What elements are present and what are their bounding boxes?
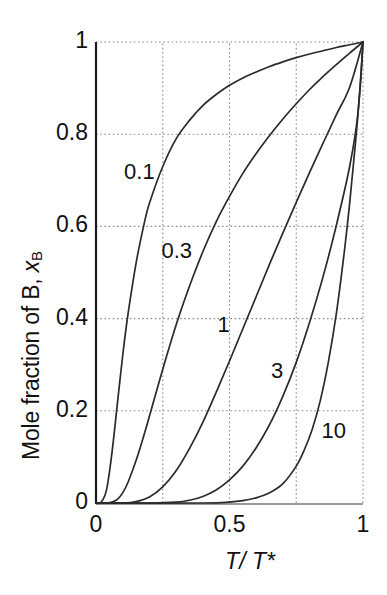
y-tick-label: 0.2	[8, 396, 88, 423]
curve-label-1: 1	[217, 312, 229, 338]
y-tick-label: 0.6	[8, 211, 88, 238]
y-tick-label: 0.4	[8, 304, 88, 331]
chart-figure: Mole fraction of B, xB T/ T* 00.20.40.60…	[0, 0, 387, 595]
x-tick-label: 0.5	[200, 511, 260, 538]
curve-label-10: 10	[322, 418, 346, 444]
y-tick-label: 0.8	[8, 119, 88, 146]
curve-label-0-3: 0.3	[161, 238, 192, 264]
y-tick-label: 1	[8, 27, 88, 54]
curve-label-0-1: 0.1	[124, 159, 155, 185]
x-tick-label: 0	[66, 511, 126, 538]
x-tick-label: 1	[333, 511, 387, 538]
curve-label-3: 3	[271, 358, 283, 384]
